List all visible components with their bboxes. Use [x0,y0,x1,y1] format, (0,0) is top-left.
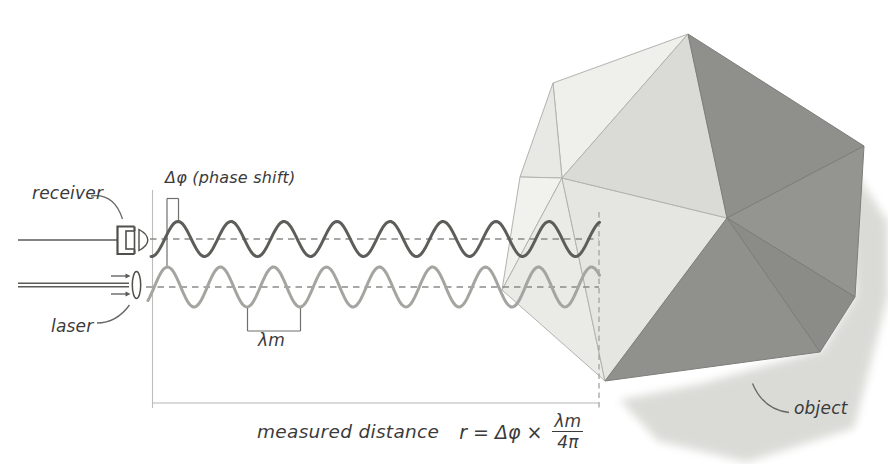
laser-phase-shift-diagram [0,0,888,464]
phase-shift-label: Δφ (phase shift) [165,168,295,187]
receiver-lens [139,230,148,251]
object-polyhedron [502,34,864,381]
laser-leader [97,305,130,323]
wavelength-label: λm [258,330,285,350]
laser-icon [18,272,141,299]
laser-arrow-bottom-head [126,292,131,297]
measured-distance-text: measured distance [257,421,439,442]
receiver-sensor [126,231,135,249]
laser-lens [132,272,140,299]
fraction-denominator: 4π [552,431,583,451]
formula-fraction: λm 4π [550,412,587,452]
measured-distance-formula: measured distance r = Δφ × λm 4π [257,412,586,452]
fraction-numerator: λm [550,412,587,431]
object-label: object [794,398,848,418]
wavelength-bracket [248,308,301,331]
receiver-icon [18,227,148,255]
formula-expression: r = Δφ × [459,421,542,443]
laser-label: laser [51,316,93,336]
receiver-label: receiver [32,183,103,203]
laser-arrow-top-head [126,274,131,279]
